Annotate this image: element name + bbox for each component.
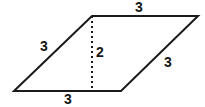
label-height: 2	[96, 45, 104, 59]
label-right-side: 3	[164, 55, 172, 69]
label-top-side: 3	[135, 0, 143, 14]
label-left-side: 3	[40, 39, 48, 53]
geometry-figure: 3 3 2 3 3	[0, 0, 205, 107]
label-bottom-side: 3	[64, 92, 72, 106]
